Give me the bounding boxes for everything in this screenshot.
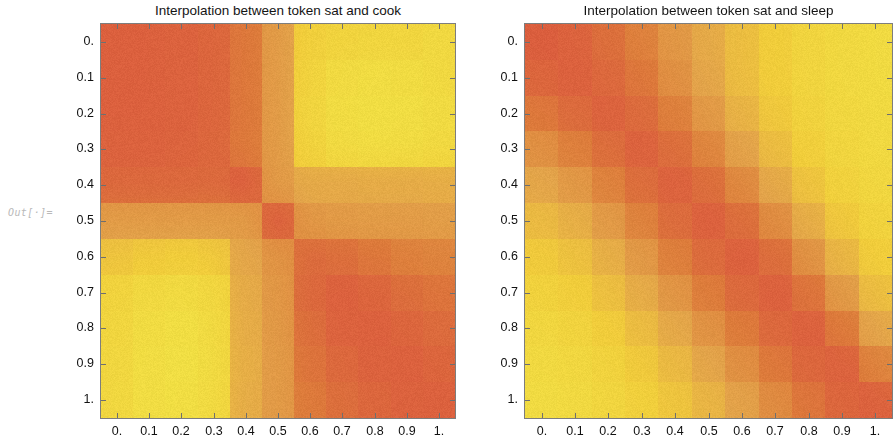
- y-axis-tick-right: [887, 257, 892, 258]
- y-axis-tick-label: 0.: [56, 35, 94, 48]
- x-axis-tick-top: [709, 24, 710, 29]
- x-axis-tick-top: [642, 24, 643, 29]
- x-axis-tick-top: [842, 24, 843, 29]
- x-axis-tick: [608, 413, 609, 418]
- y-axis-tick-right: [887, 42, 892, 43]
- y-axis-tick: [101, 185, 106, 186]
- y-axis-tick-right: [450, 364, 455, 365]
- y-axis-tick-right: [887, 328, 892, 329]
- x-axis-tick: [181, 413, 182, 418]
- y-axis-tick-label: 0.7: [56, 286, 94, 299]
- y-axis-tick: [525, 293, 530, 294]
- y-axis-tick: [525, 42, 530, 43]
- y-axis-tick-label: 0.2: [480, 107, 518, 120]
- y-axis-tick-label: 0.3: [56, 142, 94, 155]
- x-axis-tick-top: [675, 24, 676, 29]
- x-axis-tick-label: 1.: [419, 425, 459, 438]
- y-axis-tick-label: 0.5: [480, 214, 518, 227]
- y-axis-tick-label: 0.4: [480, 178, 518, 191]
- y-axis-tick: [101, 221, 106, 222]
- y-axis-tick-label: 0.8: [480, 321, 518, 334]
- y-axis-tick-right: [450, 257, 455, 258]
- y-axis-tick-right: [450, 400, 455, 401]
- y-axis-tick-right: [450, 149, 455, 150]
- x-axis-tick-label: 1.: [855, 425, 895, 438]
- x-axis-tick-top: [608, 24, 609, 29]
- x-axis-tick: [407, 413, 408, 418]
- y-axis-tick-label: 0.: [480, 35, 518, 48]
- x-axis-tick-top: [439, 24, 440, 29]
- x-axis-tick-top: [575, 24, 576, 29]
- y-axis-tick-right: [887, 293, 892, 294]
- y-axis-tick-right: [450, 114, 455, 115]
- plot-frame-right: [524, 23, 893, 419]
- x-axis-tick-top: [214, 24, 215, 29]
- x-axis-tick: [278, 413, 279, 418]
- y-axis-tick: [101, 114, 106, 115]
- y-axis-tick: [525, 185, 530, 186]
- y-axis-tick: [101, 78, 106, 79]
- y-axis-tick: [101, 364, 106, 365]
- x-axis-tick: [310, 413, 311, 418]
- x-axis-tick: [542, 413, 543, 418]
- y-axis-tick-label: 1.: [56, 393, 94, 406]
- x-axis-tick-top: [310, 24, 311, 29]
- x-axis-tick: [675, 413, 676, 418]
- x-axis-tick-top: [407, 24, 408, 29]
- out-prompt-label[interactable]: Out[·]=: [8, 207, 53, 218]
- x-axis-tick: [775, 413, 776, 418]
- y-axis-tick: [525, 400, 530, 401]
- x-axis-tick-top: [149, 24, 150, 29]
- y-axis-tick: [101, 293, 106, 294]
- x-axis-tick-top: [375, 24, 376, 29]
- x-axis-tick-top: [809, 24, 810, 29]
- y-axis-tick-right: [450, 42, 455, 43]
- heatmap-canvas-left[interactable]: [101, 24, 455, 418]
- y-axis-tick: [525, 78, 530, 79]
- x-axis-tick: [875, 413, 876, 418]
- y-axis-tick-label: 0.2: [56, 107, 94, 120]
- x-axis-tick: [117, 413, 118, 418]
- x-axis-tick: [575, 413, 576, 418]
- y-axis-tick-right: [887, 185, 892, 186]
- y-axis-tick-right: [887, 364, 892, 365]
- y-axis-tick-label: 1.: [480, 393, 518, 406]
- y-axis-tick-label: 0.1: [480, 71, 518, 84]
- x-axis-tick-top: [542, 24, 543, 29]
- panel-title-right: Interpolation between token sat and slee…: [524, 2, 893, 20]
- y-axis-tick-label: 0.9: [56, 357, 94, 370]
- y-axis-tick: [101, 400, 106, 401]
- y-axis-tick-label: 0.8: [56, 321, 94, 334]
- mathematica-notebook-output: Out[·]= Interpolation between token sat …: [0, 0, 895, 445]
- x-axis-tick-top: [775, 24, 776, 29]
- x-axis-tick: [439, 413, 440, 418]
- x-axis-tick-top: [181, 24, 182, 29]
- y-axis-tick-right: [887, 400, 892, 401]
- y-axis-tick-right: [887, 149, 892, 150]
- x-axis-tick: [709, 413, 710, 418]
- y-axis-tick: [101, 42, 106, 43]
- x-axis-tick: [842, 413, 843, 418]
- y-axis-tick: [525, 221, 530, 222]
- y-axis-tick: [101, 328, 106, 329]
- y-axis-tick-label: 0.6: [56, 250, 94, 263]
- x-axis-tick-top: [246, 24, 247, 29]
- y-axis-tick-label: 0.7: [480, 286, 518, 299]
- panel-title-left: Interpolation between token sat and cook: [100, 2, 456, 20]
- y-axis-tick-label: 0.1: [56, 71, 94, 84]
- y-axis-tick: [525, 149, 530, 150]
- heatmap-canvas-right[interactable]: [525, 24, 892, 418]
- x-axis-tick-top: [742, 24, 743, 29]
- x-axis-tick-top: [117, 24, 118, 29]
- y-axis-tick-label: 0.9: [480, 357, 518, 370]
- x-axis-tick: [246, 413, 247, 418]
- y-axis-tick-right: [450, 185, 455, 186]
- y-axis-tick-right: [887, 78, 892, 79]
- y-axis-tick-right: [450, 78, 455, 79]
- x-axis-tick-top: [278, 24, 279, 29]
- y-axis-tick-label: 0.4: [56, 178, 94, 191]
- x-axis-tick: [375, 413, 376, 418]
- y-axis-tick: [101, 149, 106, 150]
- x-axis-tick: [642, 413, 643, 418]
- y-axis-tick-right: [887, 221, 892, 222]
